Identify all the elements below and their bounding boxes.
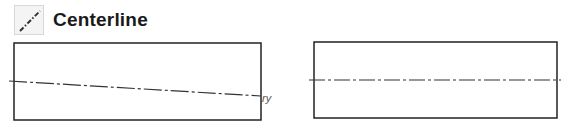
rotation-annotation: ry: [262, 92, 271, 104]
correct-centerline-figure: [309, 42, 561, 118]
centerline-figures: [0, 0, 566, 126]
incorrect-centerline-figure: [9, 43, 261, 120]
